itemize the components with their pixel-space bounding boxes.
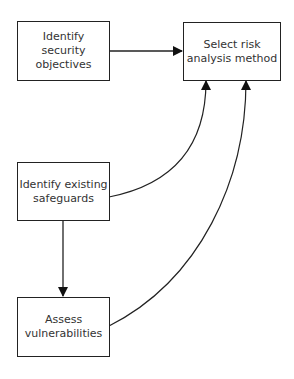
node-label: Identify existing safeguards <box>19 178 107 206</box>
node-identify-security-objectives: Identify security objectives <box>17 21 110 81</box>
edge-safeguards-to-method <box>109 81 206 197</box>
node-label: Identify security objectives <box>36 30 92 72</box>
node-label: Select risk analysis method <box>187 38 278 66</box>
node-label: Assess vulnerabilities <box>25 313 103 341</box>
node-identify-existing-safeguards: Identify existing safeguards <box>17 162 110 221</box>
node-assess-vulnerabilities: Assess vulnerabilities <box>17 297 110 357</box>
node-select-risk-analysis-method: Select risk analysis method <box>183 22 281 81</box>
edge-vulnerabilities-to-method <box>109 81 246 326</box>
